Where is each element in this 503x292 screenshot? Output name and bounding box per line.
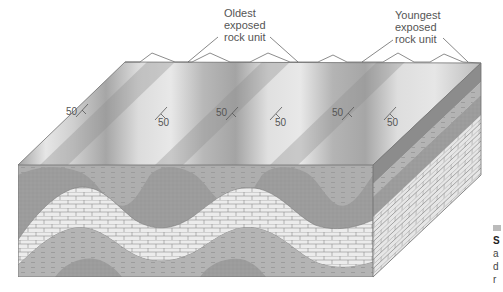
caption-line: a — [493, 248, 499, 259]
caption-line: r — [493, 274, 496, 285]
dip-value: 50 — [275, 117, 287, 128]
dip-value: 50 — [332, 107, 344, 118]
oldest-rock-label: Oldest exposed rock unit — [224, 7, 266, 43]
front-face-folded-layers — [18, 165, 373, 277]
dip-value: 50 — [216, 107, 228, 118]
caption-line: d — [493, 261, 499, 272]
label-line: rock unit — [395, 33, 440, 45]
caption-line: S — [493, 235, 500, 246]
dip-value: 50 — [66, 106, 78, 117]
label-line: Youngest — [395, 9, 440, 21]
dip-value: 50 — [387, 117, 399, 128]
label-line: rock unit — [224, 31, 266, 43]
fold-block-diagram: 50 50 50 50 50 50 Oldest exposed rock un… — [0, 0, 503, 292]
youngest-rock-label: Youngest exposed rock unit — [395, 9, 440, 45]
caption-fragment: S a d r — [493, 225, 501, 286]
label-line: Oldest — [224, 7, 266, 19]
label-line: exposed — [395, 21, 440, 33]
label-line: exposed — [224, 19, 266, 31]
dip-value: 50 — [158, 117, 170, 128]
caption-marker-icon — [493, 225, 501, 231]
